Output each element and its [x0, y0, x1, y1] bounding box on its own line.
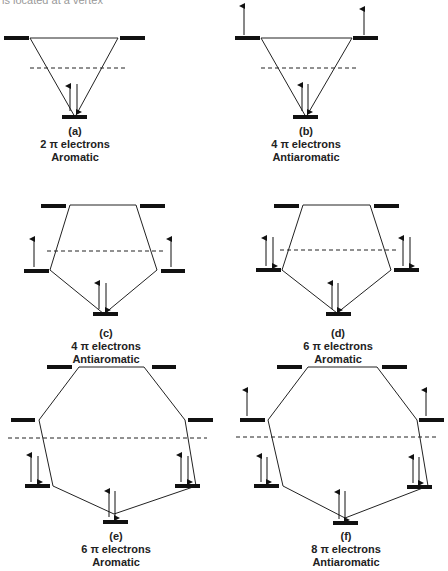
- panel-e-diagram: [8, 367, 207, 514]
- aromaticity: Antiaromatic: [276, 556, 416, 569]
- electron-count: 4 π electrons: [236, 138, 376, 151]
- panel-d-caption: (d) 6 π electrons Aromatic: [268, 327, 408, 366]
- panel-label: (f): [276, 530, 416, 543]
- panel-label: (d): [268, 327, 408, 340]
- panel-label: (c): [36, 327, 176, 340]
- panel-f-diagram: [236, 367, 438, 518]
- panel-label: (a): [5, 125, 145, 138]
- electron-count: 2 π electrons: [5, 138, 145, 151]
- aromaticity: Aromatic: [46, 556, 186, 569]
- aromaticity: Aromatic: [5, 151, 145, 164]
- panel-b-caption: (b) 4 π electrons Antiaromatic: [236, 125, 376, 164]
- panel-label: (e): [46, 530, 186, 543]
- panel-c-diagram: [47, 205, 163, 314]
- panel-f-caption: (f) 8 π electrons Antiaromatic: [276, 530, 416, 569]
- electron-arrows: [31, 6, 426, 520]
- panel-c-caption: (c) 4 π electrons Antiaromatic: [36, 327, 176, 366]
- panel-e-caption: (e) 6 π electrons Aromatic: [46, 530, 186, 569]
- panel-label: (b): [236, 125, 376, 138]
- electron-count: 6 π electrons: [46, 543, 186, 556]
- aromaticity: Aromatic: [268, 353, 408, 366]
- aromaticity: Antiaromatic: [36, 353, 176, 366]
- frost-circle-diagram: [0, 0, 448, 571]
- aromaticity: Antiaromatic: [236, 151, 376, 164]
- electron-count: 6 π electrons: [268, 340, 408, 353]
- electron-count: 8 π electrons: [276, 543, 416, 556]
- panel-a-caption: (a) 2 π electrons Aromatic: [5, 125, 145, 164]
- electron-count: 4 π electrons: [36, 340, 176, 353]
- panel-b-diagram: [261, 38, 358, 117]
- panel-a-diagram: [30, 38, 127, 117]
